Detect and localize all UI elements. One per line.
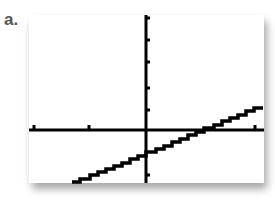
graph-plot — [0, 0, 275, 212]
graph-line — [72, 108, 263, 182]
